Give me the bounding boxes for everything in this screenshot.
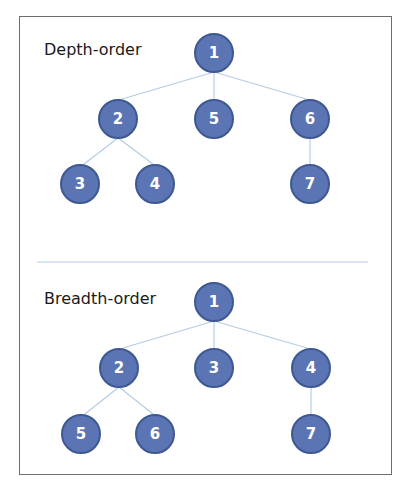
svg-text:6: 6 xyxy=(150,425,160,443)
tree-diagrams: 1 2 5 6 3 4 7 1 2 3 4 5 6 7 xyxy=(0,0,410,496)
edge-1-2 xyxy=(123,321,214,348)
edge-1-6 xyxy=(214,72,306,99)
svg-text:3: 3 xyxy=(75,175,85,193)
svg-text:4: 4 xyxy=(306,359,316,377)
depth-node: 7 xyxy=(291,165,329,203)
edge-2-5 xyxy=(85,387,119,414)
breadth-node: 4 xyxy=(292,349,330,387)
depth-node: 6 xyxy=(291,100,329,138)
svg-text:2: 2 xyxy=(113,110,123,128)
breadth-node: 5 xyxy=(62,415,100,453)
svg-text:5: 5 xyxy=(76,425,86,443)
breadth-node: 6 xyxy=(136,415,174,453)
breadth-node: 1 xyxy=(195,283,233,321)
svg-text:1: 1 xyxy=(209,293,219,311)
depth-node: 1 xyxy=(195,34,233,72)
depth-node: 5 xyxy=(195,100,233,138)
edge-1-4 xyxy=(214,321,307,348)
svg-text:4: 4 xyxy=(150,175,160,193)
breadth-node: 2 xyxy=(100,349,138,387)
breadth-node: 3 xyxy=(195,349,233,387)
depth-node: 3 xyxy=(61,165,99,203)
edge-2-4 xyxy=(118,138,153,164)
edge-1-2 xyxy=(122,72,214,99)
edge-2-6 xyxy=(119,387,153,414)
svg-text:1: 1 xyxy=(209,44,219,62)
svg-text:6: 6 xyxy=(305,110,315,128)
breadth-node: 7 xyxy=(292,415,330,453)
svg-text:7: 7 xyxy=(306,425,316,443)
depth-node: 4 xyxy=(136,165,174,203)
edge-2-3 xyxy=(84,138,118,164)
svg-text:3: 3 xyxy=(209,359,219,377)
svg-text:5: 5 xyxy=(209,110,219,128)
svg-text:7: 7 xyxy=(305,175,315,193)
depth-node: 2 xyxy=(99,100,137,138)
svg-text:2: 2 xyxy=(114,359,124,377)
